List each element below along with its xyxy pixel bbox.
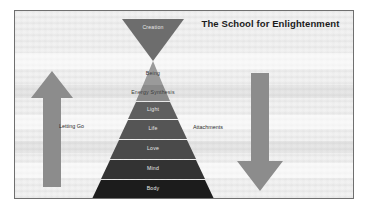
enlightenment-pyramid: Creation Being Energy Synthesis — [73, 13, 233, 199]
pyramid-tier-creation — [73, 19, 233, 61]
pyramid-tier-body — [73, 180, 233, 199]
pyramid-tier-energy-synthesis — [73, 85, 233, 101]
attachments-arrow-down — [237, 73, 283, 191]
pyramid-tier-mind — [73, 160, 233, 179]
pyramid-tier-life — [73, 120, 233, 139]
pyramid-tier-love — [73, 140, 233, 159]
letting-go-arrow-up — [31, 71, 73, 187]
pyramid-tier-being — [73, 61, 233, 85]
pyramid-tier-light — [73, 102, 233, 119]
slide-frame: The School for Enlightenment Letting Go … — [14, 10, 354, 199]
screenshot-root: The School for Enlightenment Letting Go … — [0, 0, 371, 210]
